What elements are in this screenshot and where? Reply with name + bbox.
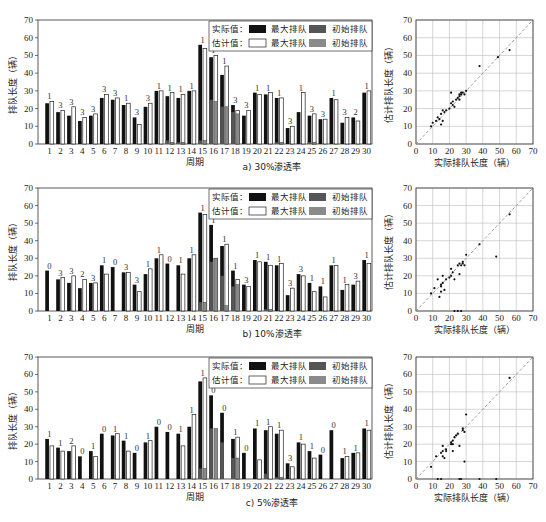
svg-text:14: 14: [187, 313, 197, 323]
bar-est-max: [181, 94, 185, 144]
x-axis-label: 周期: [186, 157, 204, 167]
svg-text:1: 1: [157, 245, 161, 255]
bar-actual-init: [166, 140, 170, 144]
svg-text:10: 10: [403, 457, 413, 467]
scatter-point: [442, 455, 444, 457]
scatter-point: [458, 99, 460, 101]
bar-actual-max: [122, 272, 126, 311]
svg-text:3: 3: [80, 107, 84, 117]
bar-actual-max: [308, 451, 312, 479]
scatter-point: [440, 284, 442, 286]
bar-actual-max: [100, 98, 104, 144]
svg-text:初始排队: 初始排队: [332, 375, 368, 385]
svg-text:50: 50: [403, 50, 413, 60]
svg-text:0: 0: [113, 257, 117, 267]
svg-text:2: 2: [353, 107, 357, 117]
svg-text:20: 20: [403, 271, 413, 281]
svg-text:3: 3: [69, 97, 73, 107]
svg-text:1: 1: [189, 245, 193, 255]
bar-actual-max: [330, 430, 334, 479]
svg-text:20: 20: [253, 146, 263, 156]
bar-est-max: [137, 125, 141, 144]
bar-actual-max: [297, 442, 301, 479]
svg-text:最大排队: 最大排队: [271, 361, 307, 371]
bar-est-max: [312, 292, 316, 311]
bar-est-max: [345, 285, 349, 311]
scatter-point: [465, 90, 467, 92]
bar-actual-max: [340, 458, 344, 479]
scatter-point: [463, 460, 465, 462]
svg-text:1: 1: [310, 441, 314, 451]
bar-est-max: [312, 458, 316, 479]
scatter-point: [465, 254, 467, 256]
scatter-point: [460, 478, 462, 480]
y-axis-label: 估计排队长度（辆）: [383, 378, 394, 459]
bar-actual-max: [45, 271, 49, 311]
bar-actual-max: [319, 455, 323, 479]
bar-est-max: [301, 444, 305, 479]
scatter-point: [452, 443, 454, 445]
bar-actual-max: [319, 119, 323, 144]
x-axis-label: 实际排队长度（辆）: [434, 324, 515, 335]
svg-text:1: 1: [277, 420, 281, 430]
svg-text:估计值：: 估计值：: [212, 375, 248, 385]
svg-text:40: 40: [403, 404, 413, 414]
svg-text:28: 28: [340, 313, 350, 323]
scatter-point: [463, 93, 465, 95]
bar-est-max: [148, 441, 152, 479]
bar-actual-max: [155, 91, 159, 144]
svg-text:70: 70: [403, 183, 413, 193]
svg-text:1: 1: [277, 254, 281, 264]
bar-est-max: [192, 91, 196, 144]
bar-actual-max: [362, 428, 366, 479]
svg-text:1: 1: [200, 368, 204, 378]
svg-text:3: 3: [69, 481, 74, 491]
svg-text:30: 30: [362, 313, 372, 323]
scatter-point: [478, 478, 480, 480]
svg-text:20: 20: [24, 271, 34, 281]
bar-est-max: [258, 262, 262, 311]
bar-actual-init: [231, 458, 235, 479]
bar-est-max: [367, 430, 371, 479]
svg-text:40: 40: [478, 313, 488, 323]
svg-text:40: 40: [24, 404, 34, 414]
bar-actual-max: [308, 116, 312, 144]
bar-actual-max: [198, 45, 202, 144]
scatter-point: [457, 433, 459, 435]
svg-text:50: 50: [403, 387, 413, 397]
svg-text:3: 3: [299, 264, 303, 274]
bar-actual-max: [111, 267, 115, 311]
svg-text:3: 3: [288, 116, 292, 126]
svg-text:10: 10: [24, 457, 34, 467]
svg-text:1: 1: [58, 438, 62, 448]
svg-text:10: 10: [428, 146, 438, 156]
svg-text:12: 12: [165, 481, 174, 491]
scatter-chart-0: 001010202030304040505060607070估计排队长度（辆）实…: [383, 15, 538, 168]
scatter-point: [458, 93, 460, 95]
bar-actual-max: [362, 93, 366, 144]
svg-text:最大排队: 最大排队: [271, 38, 307, 48]
bar-actual-init: [209, 428, 213, 479]
bar-actual-max: [78, 288, 82, 311]
bar-actual-max: [111, 435, 115, 479]
bar-est-init: [312, 142, 316, 144]
scatter-point: [437, 478, 439, 480]
svg-text:70: 70: [529, 146, 539, 156]
svg-text:22: 22: [275, 146, 284, 156]
bar-est-max: [192, 415, 196, 479]
svg-text:0: 0: [80, 446, 84, 456]
bar-est-max: [247, 110, 251, 144]
bar-actual-init: [198, 302, 202, 311]
svg-text:0: 0: [408, 139, 413, 149]
svg-text:22: 22: [275, 481, 284, 491]
svg-text:3: 3: [58, 100, 62, 110]
svg-text:60: 60: [24, 369, 34, 379]
bar-actual-max: [89, 116, 93, 144]
svg-text:10: 10: [428, 313, 438, 323]
scatter-point: [442, 282, 444, 284]
scatter-point: [440, 113, 442, 115]
svg-text:5: 5: [91, 146, 96, 156]
svg-text:3: 3: [69, 266, 73, 276]
scatter-point: [452, 100, 454, 102]
bar-actual-max: [297, 112, 301, 144]
